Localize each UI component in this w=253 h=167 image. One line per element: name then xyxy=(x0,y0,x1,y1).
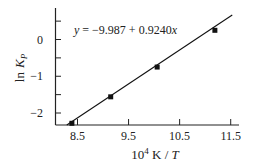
x-title-var: T xyxy=(172,147,180,162)
x-title-unit: K / xyxy=(149,147,172,162)
y-title-sub: P xyxy=(19,53,29,60)
data-points xyxy=(69,28,217,126)
y-ticks xyxy=(56,21,62,113)
x-tick-label-8-5: 8.5 xyxy=(70,129,85,143)
x-tick-label-9-5: 9.5 xyxy=(121,129,136,143)
eq-body: = −9.987 + 0.9240 xyxy=(79,23,171,37)
y-tick-label-0: 0 xyxy=(37,33,43,47)
data-point-square xyxy=(155,65,160,70)
data-point-square xyxy=(108,94,113,99)
x-tick-label-11-5: 11.5 xyxy=(220,129,241,143)
y-title-fn: ln xyxy=(12,72,27,83)
x-ticks xyxy=(78,119,231,125)
eq-x-var: x xyxy=(171,23,178,37)
data-point-square xyxy=(69,121,74,126)
y-axis-title: lnKP xyxy=(12,53,29,82)
regression-equation: y = −9.987 + 0.9240x xyxy=(73,23,178,37)
x-tick-label-10-5: 10.5 xyxy=(169,129,190,143)
lnkp-vs-inverse-temperature-chart: y = −9.987 + 0.9240x 0 −1 −2 8.5 9.5 10.… xyxy=(0,0,253,167)
y-tick-label-neg1: −1 xyxy=(30,69,43,83)
x-title-base: 10 xyxy=(131,147,144,162)
x-axis-title: 104 K / T xyxy=(131,146,179,162)
y-tick-label-neg2: −2 xyxy=(30,106,43,120)
data-point-square xyxy=(212,28,217,33)
